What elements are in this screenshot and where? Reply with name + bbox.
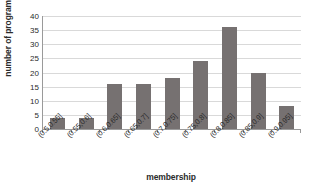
y-axis-tick-label: 40 bbox=[30, 12, 39, 21]
x-axis-title: membership bbox=[42, 172, 300, 182]
y-axis-tick-label: 20 bbox=[30, 68, 39, 77]
x-axis-tick bbox=[300, 129, 301, 133]
y-axis-tick-label: 35 bbox=[30, 26, 39, 35]
y-axis-tick-label: 30 bbox=[30, 40, 39, 49]
y-axis-tick-label: 15 bbox=[30, 82, 39, 91]
x-axis-tick-labels: (0.5,0.55](0.55,0.6](0.6,0.65](0.65,0.7]… bbox=[42, 133, 300, 171]
bar-chart: number of programs 0510152025303540 (0.5… bbox=[0, 0, 310, 190]
y-axis-tick-label: 25 bbox=[30, 54, 39, 63]
y-axis-title: number of programs bbox=[3, 0, 15, 91]
y-axis-tick-label: 5 bbox=[35, 110, 39, 119]
y-axis-tick-label: 10 bbox=[30, 96, 39, 105]
